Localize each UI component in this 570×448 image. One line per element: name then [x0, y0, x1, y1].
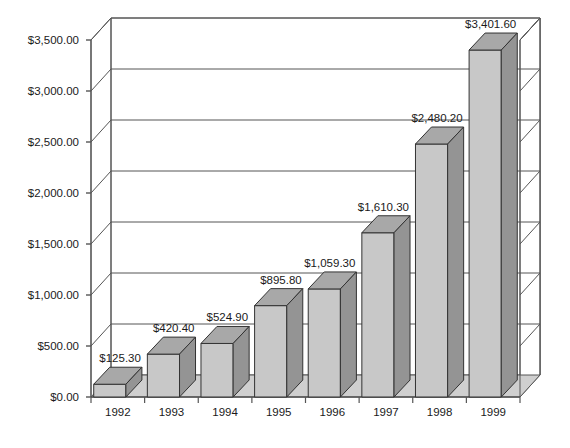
- column-chart-3d: $0.00$500.00$1,000.00$1,500.00$2,000.00$…: [0, 0, 570, 448]
- x-axis-tick-label: 1993: [159, 406, 185, 418]
- bar-front-face: [147, 354, 179, 397]
- x-axis-tick-label: 1998: [427, 406, 453, 418]
- right-wall: [520, 18, 540, 397]
- x-axis-tick-label: 1995: [266, 406, 292, 418]
- bar-front-face: [362, 233, 394, 397]
- x-axis-tick-label: 1999: [480, 406, 506, 418]
- bar-value-label: $3,401.60: [465, 18, 516, 30]
- bar-front-face: [308, 289, 340, 397]
- x-axis-tick-label: 1994: [212, 406, 238, 418]
- bar-column[interactable]: [147, 337, 195, 397]
- bar-column[interactable]: [201, 326, 249, 397]
- bar-front-face: [469, 50, 501, 397]
- y-axis-tick-label: $500.00: [37, 340, 79, 352]
- y-axis-tick-label: $2,000.00: [28, 187, 79, 199]
- bar-side-face: [448, 127, 464, 397]
- bar-side-face: [501, 33, 517, 397]
- bar-front-face: [201, 343, 233, 397]
- y-axis-tick-label: $3,500.00: [28, 34, 79, 46]
- y-axis-tick-label: $1,500.00: [28, 238, 79, 250]
- y-axis-tick-label: $1,000.00: [28, 289, 79, 301]
- x-axis-tick-label: 1997: [373, 406, 399, 418]
- bar-front-face: [255, 306, 287, 397]
- x-axis-tick-label: 1992: [105, 406, 131, 418]
- bar-side-face: [287, 289, 303, 397]
- bar-side-face: [394, 216, 410, 397]
- bar-front-face: [94, 384, 126, 397]
- bar-value-label: $524.90: [207, 311, 249, 323]
- bar-value-label: $1,610.30: [358, 201, 409, 213]
- bar-side-face: [340, 272, 356, 397]
- bar-column[interactable]: [469, 33, 517, 397]
- y-axis-tick-label: $3,000.00: [28, 85, 79, 97]
- bar-column[interactable]: [255, 289, 303, 397]
- bar-front-face: [415, 144, 447, 397]
- chart-container: $0.00$500.00$1,000.00$1,500.00$2,000.00$…: [0, 0, 570, 448]
- bar-value-label: $2,480.20: [411, 112, 462, 124]
- bar-value-label: $125.30: [99, 352, 141, 364]
- bar-column[interactable]: [362, 216, 410, 397]
- y-axis-tick-label: $2,500.00: [28, 136, 79, 148]
- bar-column[interactable]: [308, 272, 356, 397]
- bar-value-label: $420.40: [153, 322, 195, 334]
- x-axis-tick-label: 1996: [320, 406, 346, 418]
- bar-column[interactable]: [415, 127, 463, 397]
- bar-value-label: $1,059.30: [304, 257, 355, 269]
- y-axis-tick-label: $0.00: [50, 391, 79, 403]
- bar-value-label: $895.80: [260, 274, 302, 286]
